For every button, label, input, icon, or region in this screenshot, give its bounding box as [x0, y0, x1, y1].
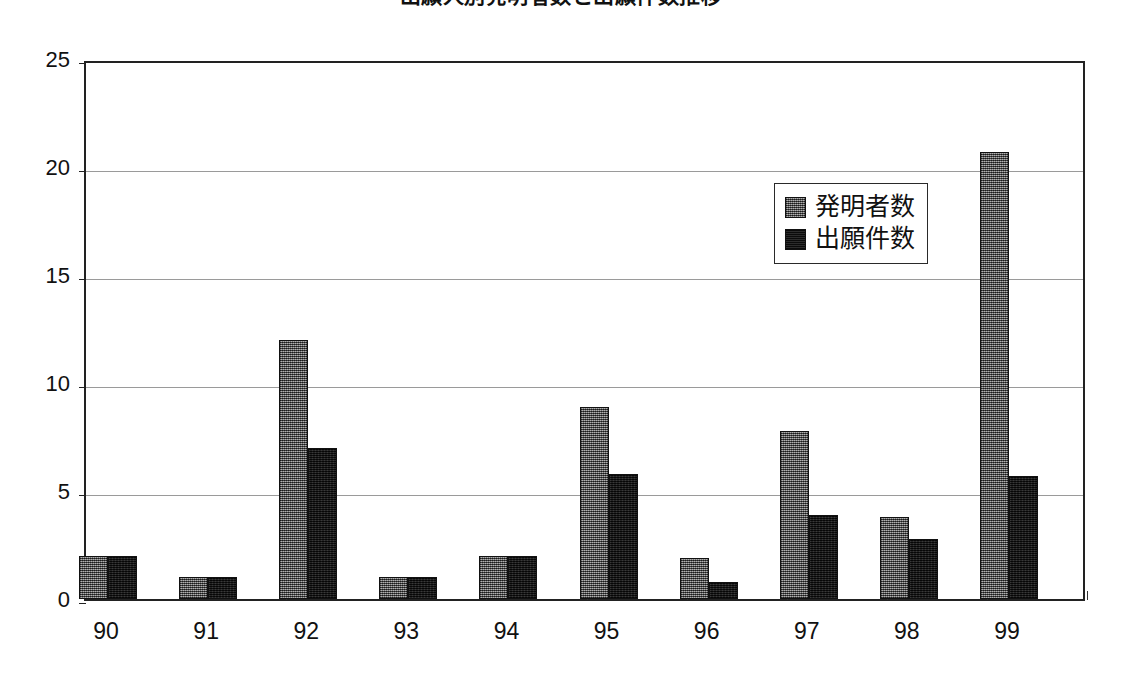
bar-96-applications	[709, 582, 738, 599]
legend-item-inventors: 発明者数	[785, 191, 915, 223]
y-tick-label: 25	[0, 49, 70, 71]
plot-area: 発明者数出願件数	[84, 61, 1085, 601]
x-tick-label-91: 91	[166, 618, 246, 644]
y-tick-label: 15	[0, 265, 70, 287]
x-axis: 90919293949596979899	[84, 618, 1085, 658]
bar-98-applications	[909, 539, 938, 599]
y-axis: 0510152025	[0, 0, 70, 700]
bar-95-applications	[609, 474, 638, 599]
legend-item-applications: 出願件数	[785, 223, 915, 255]
bar-90-applications	[108, 556, 137, 599]
y-tick-mark	[79, 279, 86, 280]
y-tick-mark	[79, 171, 86, 172]
x-tick-label-96: 96	[667, 618, 747, 644]
y-tick-mark	[79, 387, 86, 388]
x-tick-label-97: 97	[767, 618, 847, 644]
x-tick-label-99: 99	[967, 618, 1047, 644]
bar-94-applications	[508, 556, 537, 599]
bar-96-inventors	[680, 558, 709, 599]
bar-91-inventors	[179, 577, 208, 599]
x-tick-label-90: 90	[66, 618, 146, 644]
gridline	[86, 279, 1083, 280]
chart-legend: 発明者数出願件数	[774, 183, 928, 264]
x-tick-label-93: 93	[366, 618, 446, 644]
gridline	[86, 171, 1083, 172]
legend-label: 発明者数	[815, 193, 915, 221]
bar-95-inventors	[580, 407, 609, 599]
y-tick-label: 0	[0, 589, 70, 611]
x-tick-mark	[1087, 591, 1088, 600]
bar-99-inventors	[980, 152, 1009, 599]
bar-97-applications	[809, 515, 838, 599]
x-tick-label-98: 98	[867, 618, 947, 644]
x-tick-label-94: 94	[466, 618, 546, 644]
bar-92-applications	[308, 448, 337, 599]
bar-93-inventors	[379, 577, 408, 599]
bar-91-applications	[208, 577, 237, 599]
y-tick-mark	[79, 603, 86, 604]
legend-swatch-icon	[785, 229, 806, 250]
x-tick-label-95: 95	[567, 618, 647, 644]
y-tick-label: 10	[0, 373, 70, 395]
bar-90-inventors	[79, 556, 108, 599]
bar-92-inventors	[279, 340, 308, 599]
bar-98-inventors	[880, 517, 909, 599]
y-tick-label: 20	[0, 157, 70, 179]
bar-99-applications	[1009, 476, 1038, 599]
x-tick-label-92: 92	[266, 618, 346, 644]
chart-title: 出願人別発明者数と出願件数推移	[0, 0, 1122, 8]
gridline	[86, 387, 1083, 388]
bar-97-inventors	[780, 431, 809, 599]
legend-label: 出願件数	[815, 225, 915, 253]
bar-93-applications	[408, 577, 437, 599]
y-tick-label: 5	[0, 481, 70, 503]
legend-swatch-icon	[785, 197, 806, 218]
y-tick-mark	[79, 63, 86, 64]
y-tick-mark	[79, 495, 86, 496]
bar-94-inventors	[479, 556, 508, 599]
